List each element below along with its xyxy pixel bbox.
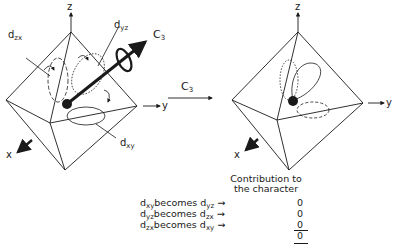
left-z-label: z	[67, 2, 72, 12]
right-orbitals	[280, 60, 329, 118]
contribution-heading: Contribution to the character	[216, 174, 316, 194]
dzx-label: dzx	[8, 30, 22, 41]
dxy-label: dxy	[120, 138, 135, 149]
left-axes	[18, 13, 160, 152]
c3-axis-arrow	[62, 42, 145, 109]
dyz-label: dyz	[114, 20, 128, 31]
contribution-rows: dxybecomes dyz → 0 dyzbecomes dzx → 0 dz…	[140, 197, 225, 230]
left-y-label: y	[162, 101, 168, 111]
right-z-label: z	[295, 2, 300, 12]
contribution-row: dxybecomes dyz → 0	[140, 197, 225, 208]
right-x-label: x	[234, 150, 240, 160]
total-underline	[294, 243, 308, 244]
heading-line-2: the character	[216, 184, 316, 194]
c3-operation-label: C3	[181, 82, 193, 93]
dzx-lobe	[48, 58, 68, 102]
left-x-label: x	[6, 150, 12, 160]
contribution-row: dyzbecomes dzx → 0	[140, 208, 225, 219]
right-y-label: y	[386, 98, 392, 108]
contribution-row: dzxbecomes dxy → 0	[140, 219, 225, 230]
c3-axis-label: C3	[153, 30, 165, 41]
right-axes	[246, 13, 384, 150]
character-total: 0	[297, 230, 303, 241]
left-orbitals	[26, 28, 118, 138]
